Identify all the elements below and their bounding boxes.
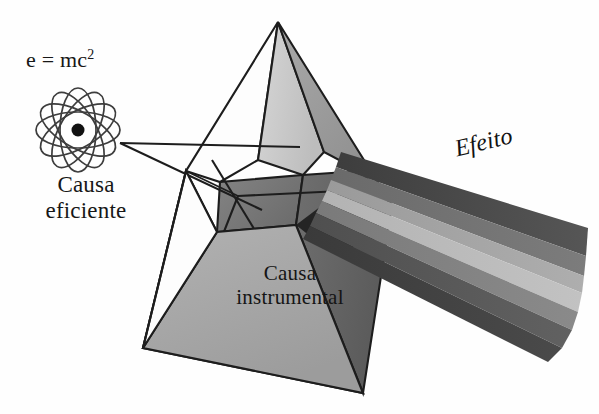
- formula-label: e = mc2: [26, 48, 94, 73]
- instrumental-cause-label: Causainstrumental: [215, 262, 365, 309]
- instrumental-cause-line-1: Causa: [264, 261, 316, 285]
- efficient-cause-line-2: eficiente: [22, 198, 150, 224]
- efficient-cause-line-1: Causa: [57, 172, 114, 197]
- figure-canvas: e = mc2 Causaeficiente Causainstrumental…: [0, 0, 599, 414]
- efficient-cause-label: Causaeficiente: [22, 172, 150, 224]
- formula-base: e = mc: [26, 47, 87, 72]
- instrumental-cause-line-2: instrumental: [215, 286, 365, 310]
- formula-exponent: 2: [87, 47, 94, 62]
- atom-nucleus: [72, 124, 85, 137]
